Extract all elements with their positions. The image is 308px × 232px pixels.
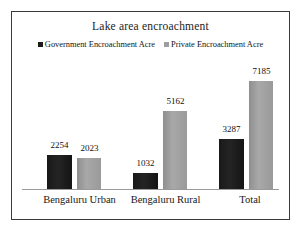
legend-label-private: Private Encroachment Acre [171, 40, 263, 49]
bar-group-bengaluru-urban: 2254 2023 Bengaluru Urban [36, 58, 123, 219]
chart-frame: Lake area encroachment Government Encroa… [11, 11, 290, 220]
bar-private-bengaluru-rural[interactable] [163, 111, 187, 189]
bar-value-government-total: 3287 [214, 124, 249, 134]
bar-value-government-bengaluru-rural: 1032 [128, 158, 163, 168]
bar-government-bengaluru-urban[interactable] [47, 155, 72, 189]
bar-private-total[interactable] [249, 81, 273, 189]
bar-value-private-bengaluru-urban: 2023 [72, 143, 107, 153]
bar-government-total[interactable] [219, 139, 244, 189]
bar-government-bengaluru-rural[interactable] [133, 173, 158, 189]
chart-title: Lake area encroachment [12, 20, 289, 32]
bar-group-bengaluru-rural: 1032 5162 Bengaluru Rural [122, 58, 209, 219]
plot-area: 2254 2023 Bengaluru Urban 1032 5162 Beng… [12, 58, 289, 219]
legend-item-government[interactable]: Government Encroachment Acre [38, 40, 155, 49]
legend-label-government: Government Encroachment Acre [45, 40, 155, 49]
bar-private-bengaluru-urban[interactable] [77, 158, 101, 189]
square-marker-icon [38, 42, 43, 47]
bar-group-total: 3287 7185 Total [208, 58, 295, 219]
square-marker-icon [164, 42, 169, 47]
bar-value-private-bengaluru-rural: 5162 [158, 96, 193, 106]
chart-legend: Government Encroachment Acre Private Enc… [12, 40, 289, 49]
category-label-total: Total [200, 194, 300, 205]
legend-item-private[interactable]: Private Encroachment Acre [164, 40, 263, 49]
bar-value-private-total: 7185 [244, 66, 279, 76]
